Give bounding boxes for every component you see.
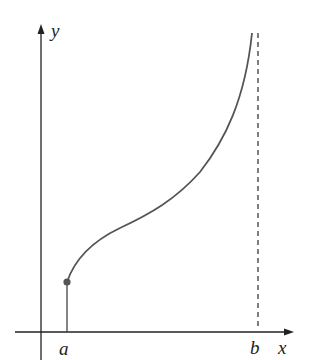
b-label: b [250, 337, 260, 359]
y-axis-label: y [51, 20, 59, 42]
y-axis [38, 24, 45, 360]
start-point [63, 278, 70, 285]
y-axis-arrow-icon [38, 24, 45, 34]
x-axis-label: x [278, 337, 286, 359]
function-graph [0, 0, 310, 360]
x-axis [15, 329, 294, 336]
a-label: a [59, 338, 69, 360]
function-curve [67, 33, 252, 282]
x-axis-arrow-icon [284, 329, 294, 336]
